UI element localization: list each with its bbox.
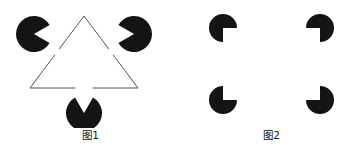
- figure-caption-fig2: 图2: [181, 129, 362, 142]
- figure-panel-fig2: 图2: [181, 0, 362, 156]
- pacman-top-right: [118, 16, 152, 52]
- triangle-side-right-stub-a: [84, 16, 109, 49]
- triangle-side-left-stub-b: [30, 55, 55, 88]
- triangle-side-right-stub-b: [113, 55, 138, 88]
- pacman-top-left: [16, 16, 50, 52]
- figure-caption-fig1: 图1: [0, 129, 181, 142]
- figure-canvas: 图1 图2: [0, 0, 362, 156]
- pacman-bottom: [66, 97, 102, 128]
- triangle-side-left-stub-a: [59, 16, 84, 49]
- kanizsa-triangle-illustration: [0, 0, 181, 128]
- pacman-top-left: [209, 14, 237, 42]
- kanizsa-square-illustration: [181, 0, 362, 128]
- pacman-bottom-left: [209, 86, 237, 114]
- pacman-top-right: [306, 14, 334, 42]
- figure-panel-fig1: 图1: [0, 0, 181, 156]
- pacman-bottom-right: [306, 86, 334, 114]
